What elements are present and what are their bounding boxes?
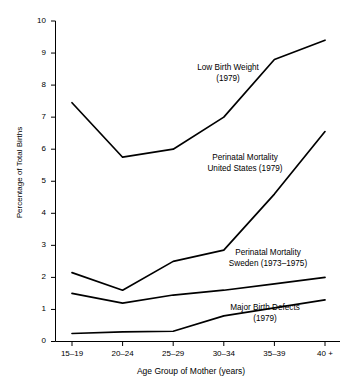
series-annotation-3: Major Birth Defects (1979): [205, 303, 325, 324]
y-axis-title: Percentage of Total Births: [15, 103, 24, 243]
x-axis-tick-label: 30–34: [197, 349, 251, 358]
x-axis-tick-label: 35–39: [247, 349, 301, 358]
y-axis-tick-label: 6: [30, 145, 46, 153]
chart-plot-area: [0, 0, 352, 383]
series-annotation-0: Low Birth Weight (1979): [168, 63, 288, 84]
y-axis-tick-label: 8: [30, 81, 46, 89]
x-axis-ticks: [72, 342, 325, 347]
x-axis-tick-label: 40 +: [298, 349, 352, 358]
series-annotation-2: Perinatal Mortality Sweden (1973–1975): [208, 248, 328, 269]
y-axis-tick-label: 1: [30, 305, 46, 313]
x-axis-tick-label: 20–24: [96, 349, 150, 358]
y-axis-tick-label: 3: [30, 241, 46, 249]
x-axis-tick-label: 15–19: [45, 349, 99, 358]
chart-series-lines: [72, 40, 325, 333]
y-axis-tick-label: 5: [30, 177, 46, 185]
chart-figure: 012345678910 15–1920–2425–2930–3435–3940…: [0, 0, 352, 383]
x-axis-title: Age Group of Mother (years): [55, 366, 327, 376]
y-axis-tick-label: 4: [30, 209, 46, 217]
y-axis-tick-label: 0: [30, 337, 46, 345]
y-axis-tick-label: 7: [30, 113, 46, 121]
y-axis-ticks: [51, 21, 56, 342]
series-line-2: [72, 277, 325, 303]
series-line-0: [72, 40, 325, 157]
x-axis-tick-label: 25–29: [146, 349, 200, 358]
y-axis-tick-label: 10: [30, 17, 46, 25]
y-axis-tick-label: 2: [30, 273, 46, 281]
series-annotation-1: Perinatal Mortality United States (1979): [185, 153, 305, 174]
y-axis-tick-label: 9: [30, 49, 46, 57]
